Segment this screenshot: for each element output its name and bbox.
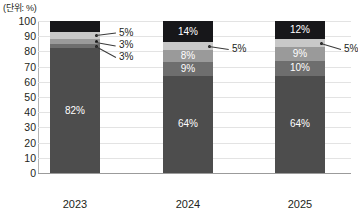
plot-area: 1009080706050403020100 82%64%9%8%14%64%1…	[38, 21, 351, 173]
bar-segment-2025-tier2[interactable]: 10%	[275, 61, 325, 76]
bar-value-label-2024-tier3: 8%	[181, 51, 195, 61]
y-tick-label-70: 70	[2, 62, 36, 72]
bar-segment-2024-base[interactable]: 64%	[163, 76, 213, 173]
gridline-0	[38, 173, 351, 174]
bar-value-label-2024-top: 14%	[178, 27, 198, 37]
y-tick-label-100: 100	[2, 16, 36, 26]
bar-segment-2025-top[interactable]: 12%	[275, 21, 325, 39]
callout-label-2023-tier3: 3%	[119, 40, 133, 50]
bar-value-label-2025-top: 12%	[290, 25, 310, 35]
bar-segment-2023-tier2[interactable]	[50, 44, 100, 49]
bar-segment-2024-tier3[interactable]: 8%	[163, 50, 213, 62]
bar-segment-2024-top[interactable]: 14%	[163, 21, 213, 42]
bar-group-2025[interactable]: 64%10%9%12%	[275, 21, 325, 173]
bar-value-label-2023-base: 82%	[65, 106, 85, 116]
y-tick-label-40: 40	[2, 107, 36, 117]
bar-group-2023[interactable]: 82%	[50, 21, 100, 173]
bar-value-label-2024-tier2: 9%	[181, 64, 195, 74]
bar-segment-2024-tier4[interactable]	[163, 42, 213, 50]
bar-value-label-2025-tier2: 10%	[290, 63, 310, 73]
bar-stack-2023: 82%	[50, 21, 100, 173]
y-tick-label-80: 80	[2, 46, 36, 56]
unit-caption: (단위: %)	[3, 1, 37, 14]
y-tick-label-20: 20	[2, 138, 36, 148]
bar-value-label-2025-tier3: 9%	[293, 49, 307, 59]
bar-segment-2025-base[interactable]: 64%	[275, 76, 325, 173]
bar-segment-2023-top[interactable]	[50, 21, 100, 32]
bar-stack-2024: 64%9%8%14%	[163, 21, 213, 173]
callout-label-2025-tier4: 5%	[344, 44, 358, 54]
bar-segment-2025-tier4[interactable]	[275, 39, 325, 47]
bar-stack-2025: 64%10%9%12%	[275, 21, 325, 173]
x-tick-label-2023: 2023	[35, 199, 115, 210]
bar-segment-2023-tier4[interactable]	[50, 32, 100, 40]
y-tick-label-50: 50	[2, 92, 36, 102]
x-tick-label-2025: 2025	[260, 199, 340, 210]
callout-label-2024-tier4: 5%	[232, 44, 246, 54]
callout-label-2023-tier2: 3%	[119, 52, 133, 62]
bar-segment-2024-tier2[interactable]: 9%	[163, 62, 213, 76]
bar-group-2024[interactable]: 64%9%8%14%	[163, 21, 213, 173]
y-tick-label-10: 10	[2, 153, 36, 163]
bar-segment-2023-base[interactable]: 82%	[50, 48, 100, 173]
y-tick-label-60: 60	[2, 77, 36, 87]
x-tick-label-2024: 2024	[148, 199, 228, 210]
bar-value-label-2024-base: 64%	[178, 119, 198, 129]
bar-segment-2023-tier3[interactable]	[50, 39, 100, 44]
bar-segment-2025-tier3[interactable]: 9%	[275, 47, 325, 61]
y-tick-label-0: 0	[2, 168, 36, 178]
y-tick-label-90: 90	[2, 31, 36, 41]
bar-value-label-2025-base: 64%	[290, 119, 310, 129]
y-tick-label-30: 30	[2, 122, 36, 132]
callout-label-2023-tier4: 5%	[119, 28, 133, 38]
